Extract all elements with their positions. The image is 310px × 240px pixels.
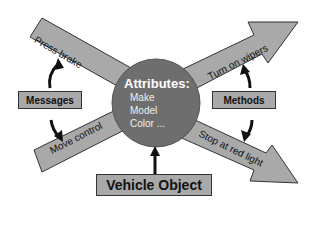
- attributes-title: Attributes:: [124, 76, 190, 91]
- methods-box: Methods: [212, 91, 276, 109]
- attributes-circle: [112, 59, 200, 147]
- attribute-model: Model: [130, 105, 157, 116]
- vehicle-object-box: Vehicle Object: [96, 174, 212, 196]
- messages-box: Messages: [18, 91, 82, 109]
- attribute-make: Make: [130, 92, 154, 103]
- attribute-color: Color ...: [130, 118, 165, 129]
